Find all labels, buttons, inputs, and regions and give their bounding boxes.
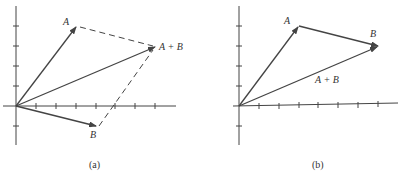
vectors <box>239 26 378 106</box>
label-a: A <box>284 16 290 26</box>
vector-sum-arrow <box>239 47 377 106</box>
caption-b: (b) <box>312 160 324 170</box>
caption-a: (a) <box>89 160 100 170</box>
label-a: A <box>63 17 69 27</box>
vector-a-arrow <box>16 27 76 106</box>
parallelogram-dashes <box>80 27 153 126</box>
vector-diagram-a <box>0 0 200 180</box>
vector-a-arrow <box>239 27 298 106</box>
panel-a-parallelogram: A A + B B (a) <box>0 0 200 180</box>
panel-b-head-to-tail: A B A + B (b) <box>200 0 400 180</box>
vector-diagram-b <box>200 0 400 180</box>
label-b: B <box>370 29 376 39</box>
label-sum: A + B <box>159 42 183 52</box>
vector-b-arrow <box>299 26 378 46</box>
label-b: B <box>90 130 96 140</box>
label-sum: A + B <box>315 75 339 85</box>
